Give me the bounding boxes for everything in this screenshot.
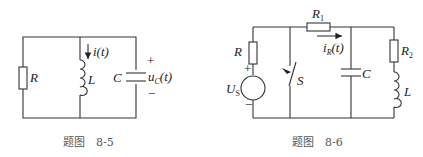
label-l: L [87, 72, 95, 87]
label-c: C [113, 70, 122, 85]
caption-8-6: 题图 8-6 [292, 136, 343, 149]
resistor-r1 [307, 23, 330, 31]
label-s: S [297, 73, 304, 88]
figure-8-6: R + − US S R1 iR(t) C R2 L 题图 8-6 [226, 6, 413, 149]
label-plus: + [244, 61, 251, 76]
caption-8-5: 题图 8-5 [63, 136, 114, 149]
inductor-l [394, 72, 401, 108]
label-r: R [29, 70, 38, 85]
switch-actuator-icon [282, 68, 291, 74]
circuit-figures: R L C i(t) + − uC(t) 题图 8-5 [0, 0, 423, 157]
label-r1: R1 [311, 6, 324, 23]
label-c: C [362, 66, 371, 81]
label-current: iR(t) [323, 40, 344, 57]
label-r2: R2 [400, 43, 413, 60]
label-plus: + [147, 53, 154, 68]
label-minus: − [148, 86, 155, 101]
label-minus: − [245, 97, 252, 112]
resistor-r2 [390, 40, 398, 62]
figure-8-5: R L C i(t) + − uC(t) 题图 8-5 [19, 37, 172, 149]
label-r: R [233, 44, 242, 59]
label-l: L [403, 84, 411, 99]
label-voltage: uC(t) [148, 69, 172, 86]
label-us: US [226, 81, 240, 98]
label-current: i(t) [93, 44, 109, 59]
inductor-l [80, 60, 87, 96]
resistor-r [19, 67, 27, 89]
